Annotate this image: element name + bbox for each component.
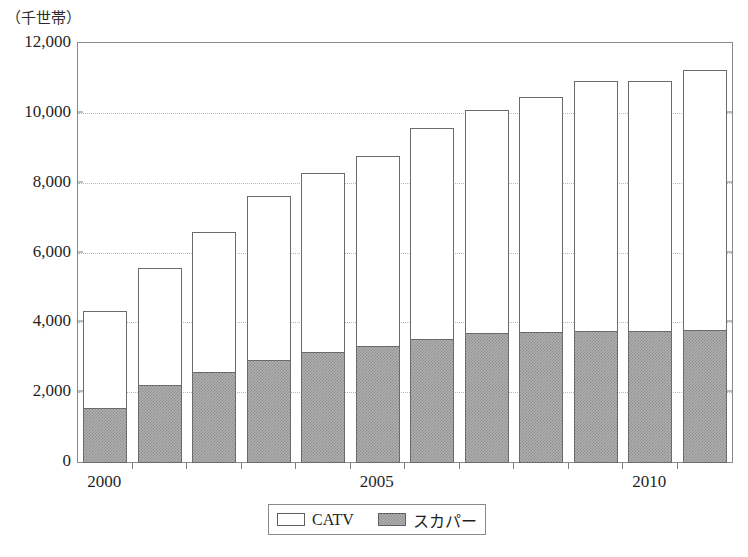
legend-item-skyperfectv[interactable]: スカパー — [378, 508, 477, 532]
bar-segment-skyperfectv[interactable] — [83, 408, 127, 463]
y-axis-tick-label: 10,000 — [24, 102, 71, 122]
bar-segment-skyperfectv[interactable] — [465, 333, 509, 463]
y-axis: 02,0004,0006,0008,00010,00012,000 — [0, 42, 71, 463]
y-axis-tick-label: 6,000 — [33, 242, 71, 262]
bar-segment-skyperfectv[interactable] — [628, 331, 672, 463]
bar-group[interactable] — [465, 110, 509, 463]
bar-group[interactable] — [301, 173, 345, 463]
legend-swatch-skyperfectv-icon — [378, 513, 406, 526]
x-axis-tick-mark — [404, 463, 405, 469]
bar-group[interactable] — [247, 196, 291, 463]
legend-label-skyperfectv: スカパー — [413, 508, 477, 532]
x-axis-tick-mark — [677, 463, 678, 469]
y-axis-unit-label: （千世帯） — [6, 6, 81, 27]
x-axis-tick-mark — [513, 463, 514, 469]
bar-segment-catv[interactable] — [83, 311, 127, 409]
bar-group[interactable] — [356, 156, 400, 463]
y-axis-tick-label: 4,000 — [33, 311, 71, 331]
bar-segment-skyperfectv[interactable] — [247, 360, 291, 463]
x-axis-tick-label: 2010 — [632, 472, 666, 492]
bar-group[interactable] — [192, 232, 236, 463]
legend-item-catv[interactable]: CATV — [277, 511, 354, 529]
y-axis-tick-label: 0 — [63, 451, 72, 471]
chart-legend: CATV スカパー — [268, 504, 486, 535]
bar-segment-skyperfectv[interactable] — [683, 330, 727, 463]
x-axis-tick-label: 2005 — [360, 472, 394, 492]
x-axis-tick-label: 2000 — [87, 472, 121, 492]
bar-segment-catv[interactable] — [465, 110, 509, 334]
bar-segment-catv[interactable] — [519, 97, 563, 333]
bar-segment-skyperfectv[interactable] — [301, 352, 345, 463]
x-axis-tick-mark — [186, 463, 187, 469]
bar-segment-catv[interactable] — [410, 128, 454, 340]
y-axis-tick-label: 12,000 — [24, 32, 71, 52]
bar-segment-skyperfectv[interactable] — [410, 339, 454, 463]
bar-segment-catv[interactable] — [574, 81, 618, 332]
bar-group[interactable] — [138, 268, 182, 463]
bar-group[interactable] — [83, 311, 127, 463]
bar-segment-skyperfectv[interactable] — [574, 331, 618, 463]
x-axis-tick-mark — [459, 463, 460, 469]
x-axis-tick-mark — [295, 463, 296, 469]
x-axis-tick-mark — [241, 463, 242, 469]
x-axis-tick-mark — [350, 463, 351, 469]
chart-figure: （千世帯） 02,0004,0006,0008,00010,00012,000 … — [0, 0, 748, 557]
bar-segment-skyperfectv[interactable] — [356, 346, 400, 463]
x-axis-tick-mark — [132, 463, 133, 469]
bar-segment-catv[interactable] — [301, 173, 345, 353]
bar-group[interactable] — [410, 128, 454, 463]
bar-group[interactable] — [519, 97, 563, 463]
bar-group[interactable] — [628, 81, 672, 463]
bars-layer — [77, 42, 733, 463]
x-axis-tick-mark — [622, 463, 623, 469]
bar-group[interactable] — [574, 81, 618, 463]
y-axis-tick-label: 8,000 — [33, 172, 71, 192]
x-axis: 200020052010 — [77, 463, 733, 503]
y-axis-tick-label: 2,000 — [33, 381, 71, 401]
bar-segment-catv[interactable] — [247, 196, 291, 361]
bar-segment-catv[interactable] — [683, 70, 727, 331]
bar-segment-skyperfectv[interactable] — [519, 332, 563, 463]
bar-segment-skyperfectv[interactable] — [138, 385, 182, 463]
bar-group[interactable] — [683, 70, 727, 463]
bar-segment-catv[interactable] — [356, 156, 400, 347]
bar-segment-skyperfectv[interactable] — [192, 372, 236, 463]
x-axis-tick-mark — [568, 463, 569, 469]
bar-segment-catv[interactable] — [192, 232, 236, 373]
legend-swatch-catv-icon — [277, 513, 305, 526]
bar-segment-catv[interactable] — [138, 268, 182, 386]
bar-segment-catv[interactable] — [628, 81, 672, 332]
legend-label-catv: CATV — [312, 511, 354, 529]
